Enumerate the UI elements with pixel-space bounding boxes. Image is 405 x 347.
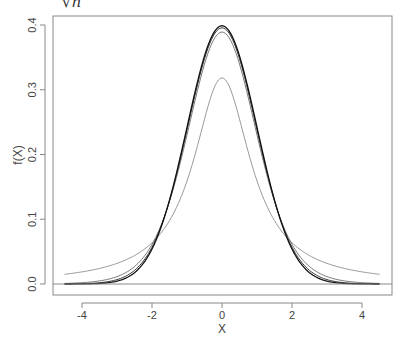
density-curve-df10 [65,32,380,283]
y-tick-label: 0.2 [26,147,38,162]
y-tick-label: 0.4 [26,17,38,32]
x-tick-label: 4 [359,309,365,321]
y-axis-label: f(X) [11,145,25,164]
y-axis: 0.00.10.20.30.4 [26,17,45,291]
y-tick-label: 0.1 [26,212,38,227]
x-tick-label: 2 [289,309,295,321]
y-tick-label: 0.0 [26,276,38,291]
curves [65,26,380,284]
x-tick-label: -4 [77,309,87,321]
chart-title-fragment: √n [62,0,81,11]
x-axis-label: X [218,322,226,336]
plot-box [53,16,392,295]
density-chart: √n 0.00.10.20.30.4 -4-2024 X f(X) [0,0,405,347]
x-axis: -4-2024 [77,303,365,321]
x-tick-label: 0 [219,309,225,321]
density-curve-normal [65,26,380,284]
density-curve-df1 [65,78,380,274]
x-tick-label: -2 [147,309,157,321]
density-curve-df30 [65,28,380,284]
y-tick-label: 0.3 [26,82,38,97]
